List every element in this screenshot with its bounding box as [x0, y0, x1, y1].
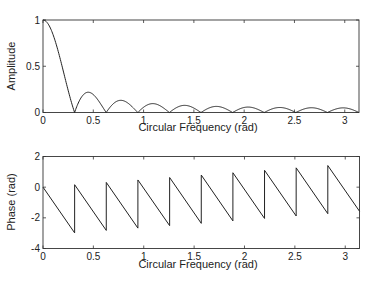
x-tick-label: 0.5: [86, 251, 100, 262]
y-tick-label: 0: [34, 107, 40, 118]
y-tick-label: 1: [34, 15, 40, 26]
x-tick-label: 2.5: [288, 115, 302, 126]
x-tick-label: 0.5: [86, 115, 100, 126]
amplitude-x-axis-label: Circular Frequency (rad): [138, 121, 257, 133]
amplitude-y-axis-label: Amplitude: [5, 42, 17, 91]
amplitude-curve: [43, 20, 359, 113]
y-tick-label: 2: [34, 151, 40, 162]
y-tick-label: -2: [31, 212, 40, 223]
phase-curve: [43, 166, 360, 233]
phase-y-axis-label: Phase (rad): [5, 173, 17, 230]
phase-plot: 00.511.522.53-4-202 Circular Frequency (…: [5, 151, 360, 270]
phase-ticks: 00.511.522.53-4-202: [31, 151, 359, 262]
x-tick-label: 3: [342, 115, 348, 126]
x-tick-label: 0: [40, 115, 46, 126]
amplitude-plot: 00.511.522.5300.51 Circular Frequency (r…: [5, 15, 359, 134]
phase-x-axis-label: Circular Frequency (rad): [138, 258, 257, 270]
figure: 00.511.522.5300.51 Circular Frequency (r…: [0, 0, 377, 284]
x-tick-label: 2.5: [288, 251, 302, 262]
y-tick-label: 0: [34, 182, 40, 193]
x-tick-label: 3: [342, 251, 348, 262]
amplitude-axes-frame: [43, 20, 359, 113]
y-tick-label: 0.5: [26, 61, 40, 72]
y-tick-label: -4: [31, 243, 40, 254]
x-tick-label: 0: [40, 251, 46, 262]
